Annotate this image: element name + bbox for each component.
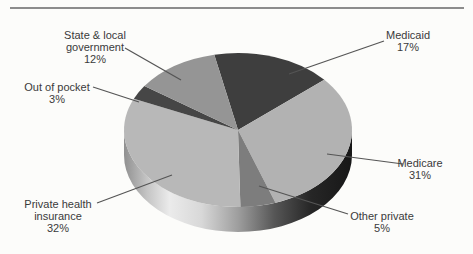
pie-chart-figure: Medicaid 17% Medicare 31% Other private … bbox=[0, 0, 473, 254]
label-state-local-government-text: State & local government bbox=[50, 29, 140, 53]
label-private-health-insurance-pct: 32% bbox=[18, 222, 98, 234]
label-other-private-text: Other private bbox=[337, 210, 427, 222]
label-medicare-pct: 31% bbox=[380, 169, 460, 181]
label-state-local-government-pct: 12% bbox=[50, 53, 140, 65]
label-medicaid: Medicaid 17% bbox=[363, 29, 453, 53]
label-medicaid-text: Medicaid bbox=[363, 29, 453, 41]
label-out-of-pocket-text: Out of pocket bbox=[7, 81, 107, 93]
label-private-health-insurance: Private health insurance 32% bbox=[18, 198, 98, 234]
label-private-health-insurance-text: Private health insurance bbox=[18, 198, 98, 222]
label-other-private: Other private 5% bbox=[337, 210, 427, 234]
label-state-local-government: State & local government 12% bbox=[50, 29, 140, 65]
label-medicare-text: Medicare bbox=[380, 157, 460, 169]
label-medicaid-pct: 17% bbox=[363, 41, 453, 53]
label-other-private-pct: 5% bbox=[337, 222, 427, 234]
label-medicare: Medicare 31% bbox=[380, 157, 460, 181]
label-out-of-pocket: Out of pocket 3% bbox=[7, 81, 107, 105]
label-out-of-pocket-pct: 3% bbox=[7, 93, 107, 105]
